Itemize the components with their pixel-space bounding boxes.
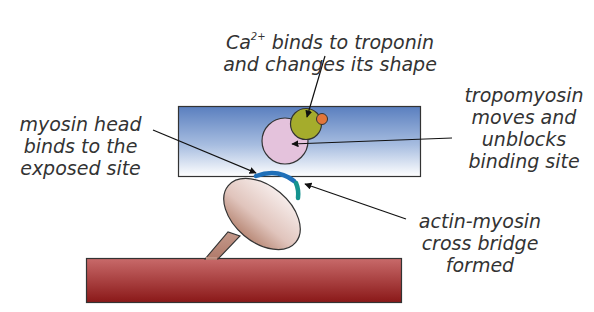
troponin bbox=[291, 109, 322, 140]
calcium-text-line2: and changes its shape bbox=[210, 53, 450, 75]
tropomyosin-line1: tropomyosin bbox=[454, 84, 594, 106]
arrow-cross-bridge bbox=[305, 184, 406, 219]
calcium-text-line1: binds to troponin bbox=[266, 31, 434, 53]
cross-bridge-line2: cross bridge bbox=[410, 232, 550, 254]
tropomyosin-line2: moves and bbox=[454, 106, 594, 128]
label-calcium: Ca2+ binds to troponin and changes its s… bbox=[210, 26, 450, 75]
calcium-ion bbox=[317, 114, 328, 125]
myosin-head-line2: binds to the bbox=[8, 135, 153, 157]
tropomyosin-line3: unblocks bbox=[454, 128, 594, 150]
myosin-neck bbox=[205, 232, 240, 259]
cross-bridge-line1: actin-myosin bbox=[410, 210, 550, 232]
label-myosin-head: myosin head binds to the exposed site bbox=[8, 113, 153, 179]
myosin-head-line3: exposed site bbox=[8, 157, 153, 179]
label-tropomyosin: tropomyosin moves and unblocks binding s… bbox=[454, 84, 594, 172]
myosin-head-line1: myosin head bbox=[8, 113, 153, 135]
calcium-symbol: Ca bbox=[226, 31, 251, 53]
calcium-charge: 2+ bbox=[251, 31, 266, 42]
label-cross-bridge: actin-myosin cross bridge formed bbox=[410, 210, 550, 276]
cross-bridge-site-teal bbox=[296, 183, 298, 198]
cross-bridge-line3: formed bbox=[410, 254, 550, 276]
myosin-filament bbox=[87, 259, 402, 303]
tropomyosin-line4: binding site bbox=[454, 150, 594, 172]
